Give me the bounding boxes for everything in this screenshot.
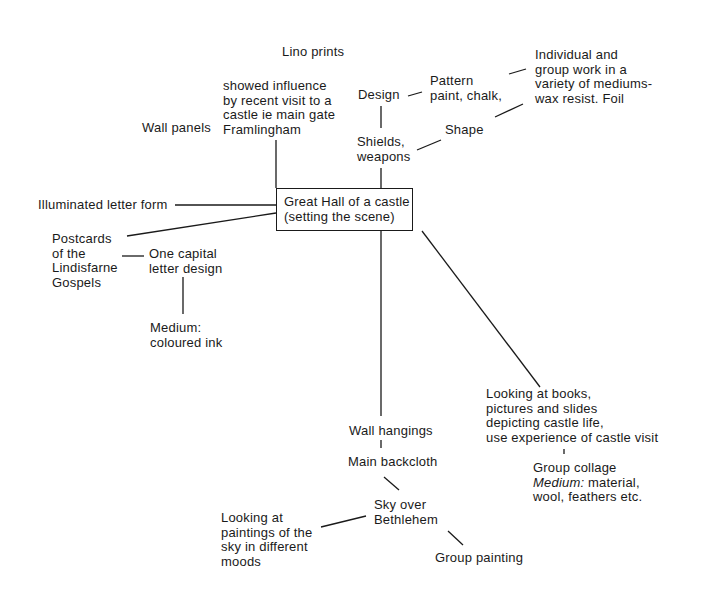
node-pattern: Pattern paint, chalk, bbox=[430, 74, 502, 103]
central-topic-box: Great Hall of a castle (setting the scen… bbox=[276, 188, 413, 231]
central-topic-line1: Great Hall of a castle bbox=[284, 194, 410, 209]
node-individual-group-work: Individual and group work in a variety o… bbox=[535, 48, 652, 106]
node-postcards-lindisfarne: Postcards of the Lindisfarne Gospels bbox=[52, 232, 118, 290]
node-group-painting: Group painting bbox=[435, 551, 523, 566]
node-looking-at-paintings: Looking at paintings of the sky in diffe… bbox=[221, 511, 312, 569]
node-shields-weapons: Shields, weapons bbox=[357, 135, 410, 164]
node-medium-coloured-ink: Medium: coloured ink bbox=[150, 321, 223, 350]
node-wall-panels: Wall panels bbox=[142, 121, 211, 136]
collage-medium-value: material, bbox=[584, 475, 639, 490]
node-group-collage: Group collage Medium: material, wool, fe… bbox=[533, 461, 642, 505]
node-one-capital-letter: One capital letter design bbox=[149, 247, 222, 276]
node-wall-hangings: Wall hangings bbox=[349, 424, 433, 439]
node-illuminated-letter-form: Illuminated letter form bbox=[38, 198, 168, 213]
node-design: Design bbox=[358, 88, 400, 103]
central-topic-line2: (setting the scene) bbox=[284, 209, 395, 224]
node-shape: Shape bbox=[445, 123, 484, 138]
node-lino-prints: Lino prints bbox=[282, 45, 344, 60]
collage-medium-line3: wool, feathers etc. bbox=[533, 489, 642, 504]
topic-web-diagram: Lino prints showed influence by recent v… bbox=[0, 0, 703, 590]
group-collage-title: Group collage bbox=[533, 460, 617, 475]
node-showed-influence: showed influence by recent visit to a ca… bbox=[223, 79, 335, 137]
collage-medium-label: Medium: bbox=[533, 475, 584, 490]
node-sky-over-bethlehem: Sky over Bethlehem bbox=[374, 498, 438, 527]
central-topic-label: Great Hall of a castle (setting the scen… bbox=[284, 195, 410, 224]
node-main-backcloth: Main backcloth bbox=[348, 455, 438, 470]
node-looking-at-books: Looking at books, pictures and slides de… bbox=[486, 387, 658, 445]
